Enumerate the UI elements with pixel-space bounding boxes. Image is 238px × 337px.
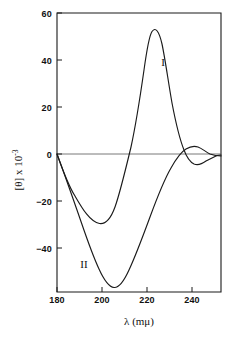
y-tick-label-0: 0 [47,150,52,160]
y-tick-label-20: 20 [42,103,52,113]
spectrum-plot: 60 40 20 0 −20 −40 180 200 220 240 λ (mμ… [0,0,238,337]
y-tick-label-minus40: −40 [36,244,52,254]
chart-figure: 60 40 20 0 −20 −40 180 200 220 240 λ (mμ… [0,0,238,337]
y-axis-ticks [57,13,62,248]
x-axis-ticks [57,287,192,292]
curve-label-I: I [161,56,165,68]
y-tick-label-60: 60 [42,9,52,19]
x-axis-title: λ (mμ) [124,315,154,328]
curve-I [57,30,221,224]
x-tick-label-180: 180 [49,295,65,305]
y-axis-title-exponent: -3 [11,149,20,155]
y-axis-title: [θ] x 10-3 [11,149,24,190]
y-tick-label-minus20: −20 [36,197,52,207]
plot-frame [57,13,221,292]
y-tick-label-40: 40 [42,56,52,66]
axes-frame [57,13,221,292]
x-tick-label-220: 220 [139,295,155,305]
curve-label-II: II [80,258,88,270]
x-tick-label-240: 240 [184,295,200,305]
x-tick-label-200: 200 [94,295,110,305]
y-axis-title-group: [θ] x 10-3 [11,149,24,190]
y-axis-title-text: [θ] x 10 [12,155,24,190]
